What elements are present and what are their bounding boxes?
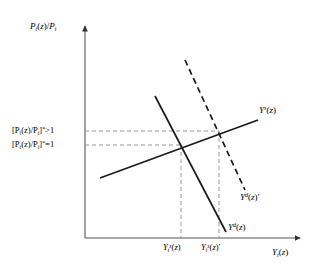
y-tick-label-price-initial: [Pt(z)/Pt]*=1 [12, 140, 54, 150]
demand-curve-shifted-label: Yd(z)′ [240, 192, 260, 202]
plot-canvas [0, 0, 320, 273]
y-axis-label: Pt(z)/Pt [30, 22, 56, 32]
demand-curve-initial [155, 96, 226, 232]
x-axis-label: Yt(z) [272, 248, 288, 258]
y-tick-label-price-new: [Pt(z)/Pt]*>1 [12, 126, 54, 136]
supply-curve-label: Ys(z) [259, 105, 276, 115]
supply-curve [100, 120, 258, 178]
demand-curve-initial-label: Yd(z) [228, 222, 246, 232]
x-tick-label-quantity-new: Yts(z)′ [201, 243, 220, 253]
x-tick-label-quantity-initial: Yts(z) [163, 243, 181, 253]
economics-supply-demand-figure: Pt(z)/Pt Yt(z) [Pt(z)/Pt]*>1 [Pt(z)/Pt]*… [0, 0, 320, 273]
